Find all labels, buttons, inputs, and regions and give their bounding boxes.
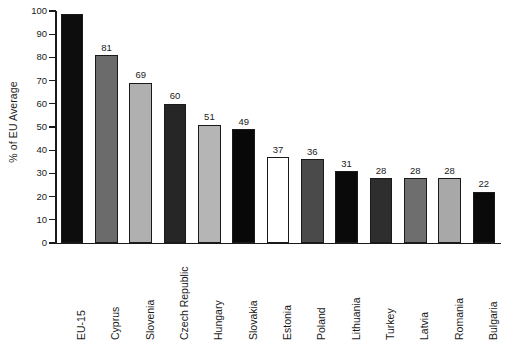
x-axis-category-text: Slovenia: [145, 300, 156, 340]
x-axis-category-label: Poland: [295, 248, 329, 344]
y-axis-tick-label: 40: [26, 145, 47, 155]
x-axis-category-text: Lithuania: [351, 297, 362, 340]
x-axis-category-label: Slovenia: [124, 248, 158, 344]
bar-value-label: 31: [341, 159, 352, 169]
bar[interactable]: [438, 178, 461, 243]
bar-group[interactable]: 22: [473, 11, 496, 243]
bar[interactable]: [473, 192, 496, 243]
y-axis-tick-label: 80: [26, 53, 47, 63]
bar-group[interactable]: 69: [129, 11, 152, 243]
bar-value-label: 28: [444, 166, 455, 176]
bar-value-label: 28: [376, 166, 387, 176]
bar-group[interactable]: 37: [267, 11, 290, 243]
x-axis-category-label: Lithuania: [329, 248, 363, 344]
bar-group[interactable]: 31: [335, 11, 358, 243]
bar[interactable]: [61, 14, 84, 243]
bar-value-label: 69: [135, 70, 146, 80]
x-axis-labels: EU-15CyprusSloveniaCzech RepublicHungary…: [55, 248, 501, 344]
bar-value-label: 51: [204, 112, 215, 122]
bar[interactable]: [232, 129, 255, 243]
bar-group[interactable]: 28: [370, 11, 393, 243]
bar[interactable]: [404, 178, 427, 243]
y-axis-tick-label: 30: [26, 169, 47, 179]
bar[interactable]: [95, 55, 118, 243]
y-axis-tick-label: 90: [26, 29, 47, 39]
y-axis-tick-label: 20: [26, 192, 47, 202]
y-axis-tick-label: 0: [26, 238, 47, 248]
x-axis-category-text: EU-15: [76, 310, 87, 340]
x-axis-category-label: Czech Republic: [158, 248, 192, 344]
bar-group[interactable]: 49: [232, 11, 255, 243]
bar-value-label: 36: [307, 147, 318, 157]
x-axis-category-text: Hungary: [213, 300, 224, 340]
bar-chart: % of EU Average 0102030405060708090100 8…: [0, 0, 509, 344]
bar-group[interactable]: 81: [95, 11, 118, 243]
bar-group[interactable]: 51: [198, 11, 221, 243]
x-axis-category-label: Bulgaria: [467, 248, 501, 344]
y-axis-tick-label: 60: [26, 99, 47, 109]
x-axis-category-label: Estonia: [261, 248, 295, 344]
y-axis-tick-label: 50: [26, 122, 47, 132]
x-axis-category-text: Romania: [454, 298, 465, 340]
x-axis-category-text: Czech Republic: [179, 266, 190, 340]
x-axis-category-text: Estonia: [282, 305, 293, 340]
x-axis-category-text: Cyprus: [110, 307, 121, 340]
x-axis-category-text: Bulgaria: [488, 301, 499, 340]
bar[interactable]: [164, 104, 187, 243]
bar-group[interactable]: 28: [404, 11, 427, 243]
x-axis-category-label: Cyprus: [89, 248, 123, 344]
x-axis-category-label: Slovakia: [227, 248, 261, 344]
bar[interactable]: [370, 178, 393, 243]
bar-value-label: 22: [479, 179, 490, 189]
bar[interactable]: [198, 125, 221, 243]
bar[interactable]: [301, 159, 324, 243]
bar-group[interactable]: 28: [438, 11, 461, 243]
bar[interactable]: [129, 83, 152, 243]
y-axis-tick-label: 100: [26, 6, 47, 16]
x-axis-category-label: Romania: [432, 248, 466, 344]
x-axis-category-label: Latvia: [398, 248, 432, 344]
x-axis-category-text: Turkey: [385, 308, 396, 340]
x-axis-category-label: Turkey: [364, 248, 398, 344]
x-axis-category-text: Slovakia: [248, 300, 259, 340]
bar-group[interactable]: [61, 11, 84, 243]
bar-value-label: 60: [170, 91, 181, 101]
bar-value-label: 81: [101, 43, 112, 53]
x-axis-category-label: Hungary: [192, 248, 226, 344]
x-axis-category-label: EU-15: [55, 248, 89, 344]
y-axis-title-text: % of EU Average: [7, 81, 19, 162]
bar-group[interactable]: 36: [301, 11, 324, 243]
bar[interactable]: [267, 157, 290, 243]
bar[interactable]: [335, 171, 358, 243]
bar-value-label: 28: [410, 166, 421, 176]
bar-group[interactable]: 60: [164, 11, 187, 243]
y-axis-title: % of EU Average: [4, 0, 22, 244]
bar-value-label: 49: [238, 117, 249, 127]
x-axis-category-text: Latvia: [419, 312, 430, 340]
y-axis-tick-label: 70: [26, 76, 47, 86]
bar-value-label: 37: [273, 145, 284, 155]
x-axis-category-text: Poland: [316, 307, 327, 340]
y-axis-tick-label: 10: [26, 215, 47, 225]
plot-area: 816960514937363128282822: [55, 11, 501, 243]
